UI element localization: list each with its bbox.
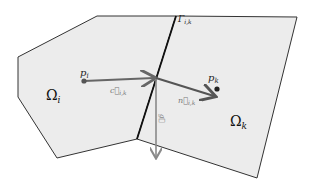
point-p-k	[214, 86, 219, 91]
label-g: g⃗	[158, 114, 166, 123]
diagram-canvas: pi pk Ωi Ωk Γi,k c⃗i,k n⃗i,k g⃗	[0, 0, 310, 189]
